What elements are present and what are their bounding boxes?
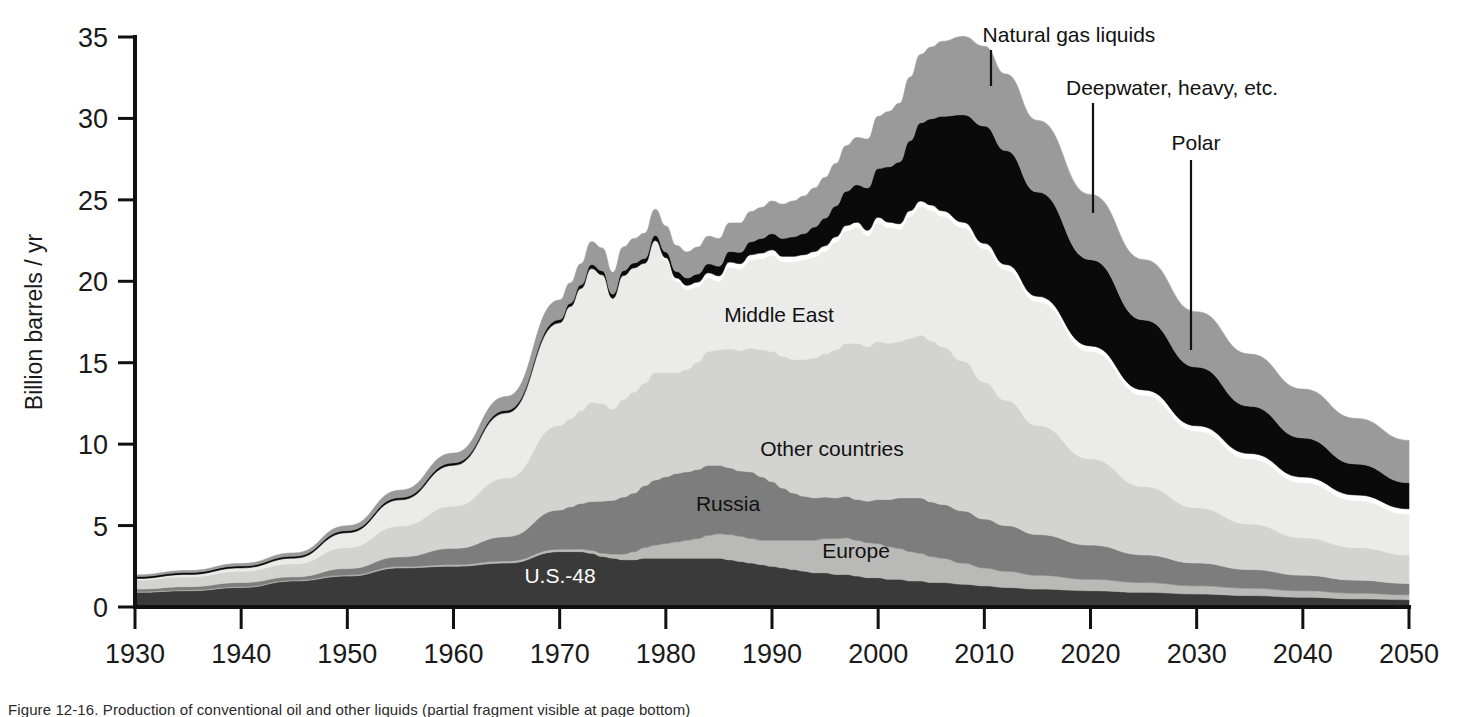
annotation-label: Polar — [1171, 131, 1220, 154]
y-tick-label: 0 — [93, 593, 108, 623]
series-label: Other countries — [760, 437, 904, 460]
x-axis-tick-labels: 1930194019501960197019801990200020102020… — [105, 639, 1439, 669]
y-tick-label: 15 — [78, 349, 108, 379]
figure-caption: Figure 12-16. Production of conventional… — [8, 700, 1452, 717]
x-tick-label: 2010 — [954, 639, 1014, 669]
series-label: Europe — [822, 539, 890, 562]
y-tick-label: 5 — [93, 512, 108, 542]
x-tick-label: 1930 — [105, 639, 165, 669]
y-tick-label: 20 — [78, 267, 108, 297]
annotation-label: Natural gas liquids — [983, 23, 1156, 46]
x-tick-label: 1940 — [211, 639, 271, 669]
x-tick-label: 1980 — [636, 639, 696, 669]
y-axis-ticks — [118, 37, 135, 607]
y-tick-label: 25 — [78, 186, 108, 216]
chart-figure: 1930194019501960197019801990200020102020… — [0, 0, 1460, 717]
series-label: U.S.-48 — [524, 564, 595, 587]
series-label: Middle East — [724, 303, 834, 326]
stacked-area-chart: 1930194019501960197019801990200020102020… — [0, 0, 1460, 690]
annotation-label: Deepwater, heavy, etc. — [1066, 76, 1278, 99]
y-tick-label: 35 — [78, 23, 108, 53]
series-label: Russia — [696, 492, 761, 515]
x-tick-label: 2030 — [1167, 639, 1227, 669]
x-tick-label: 2000 — [848, 639, 908, 669]
y-axis-title: Billion barrels / yr — [21, 233, 47, 410]
y-tick-label: 30 — [78, 104, 108, 134]
x-tick-label: 1970 — [530, 639, 590, 669]
x-tick-label: 1960 — [423, 639, 483, 669]
x-tick-label: 1950 — [317, 639, 377, 669]
x-tick-label: 2040 — [1273, 639, 1333, 669]
x-axis-ticks — [135, 609, 1409, 629]
x-tick-label: 1990 — [742, 639, 802, 669]
x-tick-label: 2050 — [1379, 639, 1439, 669]
y-tick-label: 10 — [78, 430, 108, 460]
y-axis-tick-labels: 05101520253035 — [78, 23, 108, 623]
x-tick-label: 2020 — [1060, 639, 1120, 669]
